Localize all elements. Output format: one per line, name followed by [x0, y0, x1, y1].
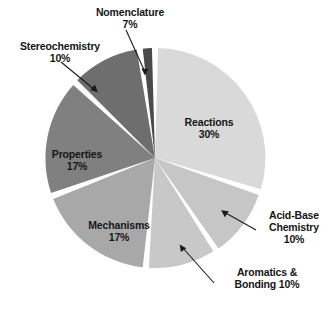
slice-label-aromatics-name: Aromatics & [237, 266, 297, 278]
slice-label-acid-base-name: Acid-Base [269, 209, 319, 221]
slice-label-acid-base-pct: 10% [259, 233, 329, 245]
slice-label-nomenclature-pct: 7% [72, 18, 188, 30]
slice-label-reactions: Reactions 30% [170, 116, 248, 140]
slice-label-aromatics-pct: Bonding 10% [205, 278, 329, 290]
slice-label-properties-name: Properties [52, 148, 102, 160]
slice-label-nomenclature: Nomenclature 7% [72, 6, 188, 30]
slice-label-acid-base-name2: Chemistry [259, 221, 329, 233]
slice-label-stereochemistry-pct: 10% [0, 52, 120, 64]
slice-label-properties-pct: 17% [38, 160, 116, 172]
slice-label-stereochemistry-name: Stereochemistry [20, 40, 100, 52]
slice-label-reactions-pct: 30% [170, 128, 248, 140]
slice-label-aromatics-bonding: Aromatics & Bonding 10% [205, 266, 329, 290]
slice-label-stereochemistry: Stereochemistry 10% [0, 40, 120, 64]
slice-label-properties: Properties 17% [38, 148, 116, 172]
slice-label-nomenclature-name: Nomenclature [96, 6, 164, 18]
slice-label-mechanisms-name: Mechanisms [88, 219, 150, 231]
slice-label-mechanisms: Mechanisms 17% [76, 219, 162, 243]
pie-chart-figure: Reactions 30% Properties 17% Mechanisms … [0, 0, 329, 313]
figure-caption [0, 305, 329, 313]
slice-label-reactions-name: Reactions [185, 116, 234, 128]
slice-label-acid-base-chemistry: Acid-Base Chemistry 10% [259, 209, 329, 246]
slice-label-mechanisms-pct: 17% [76, 231, 162, 243]
